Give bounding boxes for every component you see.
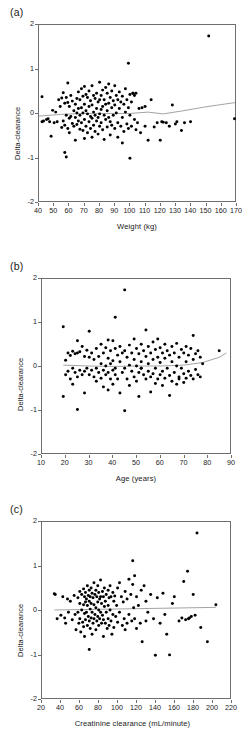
data-point: [83, 118, 86, 121]
y-tick-label: -2: [16, 197, 34, 206]
y-tick-label: 1: [19, 317, 37, 326]
data-point: [92, 596, 95, 599]
y-tick-mark: [35, 158, 38, 159]
data-point: [187, 370, 190, 373]
data-point: [168, 354, 171, 357]
data-point: [118, 611, 121, 614]
data-point: [66, 82, 69, 85]
data-point: [78, 617, 81, 620]
data-point: [192, 378, 195, 381]
data-point: [194, 352, 197, 355]
data-point: [135, 365, 138, 368]
x-tick-label: 160: [164, 703, 184, 712]
data-point: [133, 574, 136, 577]
x-tick-label: 80: [88, 703, 108, 712]
data-point: [78, 369, 81, 372]
data-point: [91, 117, 94, 120]
data-point: [74, 371, 77, 374]
data-point: [190, 615, 193, 618]
panel-a: (a) Delta-clearance -2-1012 405060708090…: [0, 0, 245, 246]
data-point: [81, 345, 84, 348]
data-point: [161, 351, 164, 354]
data-point: [82, 587, 85, 590]
data-point: [159, 361, 162, 364]
data-point: [64, 622, 67, 625]
data-point: [97, 116, 100, 119]
data-point: [98, 112, 101, 115]
data-point: [146, 611, 149, 614]
data-point: [127, 106, 130, 109]
data-point: [84, 109, 87, 112]
data-point: [130, 370, 133, 373]
data-point: [71, 383, 74, 386]
data-point: [88, 648, 91, 651]
data-point: [121, 116, 124, 119]
data-point: [95, 367, 98, 370]
data-point: [66, 101, 69, 104]
data-point: [163, 343, 166, 346]
data-point: [125, 123, 128, 126]
x-tick-label: 220: [221, 703, 241, 712]
data-point: [185, 377, 188, 380]
data-point: [118, 581, 121, 584]
data-point: [180, 348, 183, 351]
data-point: [130, 125, 133, 128]
data-point: [62, 119, 65, 122]
data-point: [109, 362, 112, 365]
data-point: [78, 98, 81, 101]
data-point: [156, 378, 159, 381]
data-point: [149, 351, 152, 354]
data-point: [113, 104, 116, 107]
data-point: [104, 600, 107, 603]
data-point: [118, 90, 121, 93]
data-point: [135, 347, 138, 350]
data-point: [139, 622, 142, 625]
data-point: [138, 107, 141, 110]
data-point: [62, 325, 65, 328]
data-point: [107, 338, 110, 341]
data-point: [97, 371, 100, 374]
data-point: [85, 598, 88, 601]
data-point: [88, 373, 91, 376]
data-point: [78, 114, 81, 117]
data-point: [64, 373, 67, 376]
data-point: [91, 84, 94, 87]
data-point: [161, 592, 164, 595]
data-point: [78, 350, 81, 353]
data-point: [83, 370, 86, 373]
data-point: [80, 121, 83, 124]
data-point: [69, 378, 72, 381]
data-point: [66, 598, 69, 601]
data-point: [173, 595, 176, 598]
data-point: [97, 591, 100, 594]
data-point: [126, 622, 129, 625]
data-point: [150, 98, 153, 101]
data-point: [124, 111, 127, 114]
data-point: [149, 391, 152, 394]
x-tick-label: 20: [55, 458, 75, 467]
x-tick-label: 140: [145, 703, 165, 712]
data-point: [72, 125, 75, 128]
data-point: [109, 96, 112, 99]
data-point: [86, 584, 89, 587]
data-point: [116, 354, 119, 357]
data-point: [128, 157, 131, 160]
x-tick-label: 70: [174, 458, 194, 467]
y-tick-mark: [38, 610, 41, 611]
data-point: [214, 603, 217, 606]
data-point: [152, 341, 155, 344]
data-point: [92, 358, 95, 361]
data-point: [116, 136, 119, 139]
x-tick-label: 20: [31, 703, 51, 712]
data-point: [123, 409, 126, 412]
panel-b-data-layer: [42, 279, 231, 453]
data-point: [91, 104, 94, 107]
data-point: [109, 134, 112, 137]
data-point: [100, 343, 103, 346]
data-point: [61, 595, 64, 598]
data-point: [168, 653, 171, 656]
data-point: [107, 357, 110, 360]
data-point: [159, 346, 162, 349]
data-point: [112, 99, 115, 102]
data-point: [89, 595, 92, 598]
